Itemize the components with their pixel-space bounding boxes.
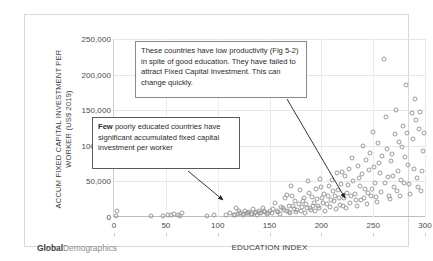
x-axis-tick [425,233,426,236]
scatter-point [332,193,337,198]
scatter-point [359,172,364,177]
scatter-point [373,180,378,185]
x-axis-tick [218,233,219,236]
brand-watermark: GlobalDemographics [37,243,117,253]
scatter-point [349,193,354,198]
scatter-point [357,183,362,188]
scatter-point [347,166,352,171]
scatter-point [355,163,360,168]
scatter-point [377,160,382,165]
scatter-point [376,140,381,145]
scatter-point [384,146,389,151]
x-tick-label: 300 [418,221,431,230]
scatter-point [343,173,348,178]
scatter-point [114,213,119,218]
y-tick-label: 150,000 [81,106,111,115]
scatter-point [149,213,154,218]
scatter-point [392,132,397,137]
scatter-point [403,155,408,160]
scatter-point [408,191,413,196]
x-tick-label: 50 [161,221,170,230]
scatter-point [383,115,388,120]
scatter-point [341,203,346,208]
scatter-point [416,126,421,131]
scatter-point [417,109,422,114]
scatter-point [318,176,323,181]
scatter-point [421,130,426,135]
x-tick-label: 200 [315,221,328,230]
scatter-point [395,189,400,194]
scatter-point [270,207,275,212]
scatter-point [285,192,290,197]
scatter-point [297,187,302,192]
scatter-point [329,177,334,182]
scatter-point [324,202,329,207]
scatter-point [415,185,420,190]
scatter-point [272,200,277,205]
scatter-point [354,204,359,209]
scatter-point [361,196,366,201]
scatter-point [412,96,417,101]
x-axis-tick [270,233,271,236]
scatter-point [345,190,350,195]
scatter-point [305,179,310,184]
scatter-point [367,168,372,173]
scatter-point [310,195,315,200]
scatter-point [372,165,377,170]
scatter-point [241,212,246,217]
y-tick-label: 200,000 [81,70,111,79]
scatter-point [405,130,410,135]
scatter-point [289,183,294,188]
scatter-point [400,145,405,150]
scatter-point [319,185,324,190]
scatter-point [278,205,283,210]
scatter-point [302,210,307,215]
x-axis-tick [166,233,167,236]
scatter-point [382,180,387,185]
scatter-point [320,196,325,201]
x-tick-label: 100 [211,221,224,230]
scatter-point [413,118,418,123]
scatter-point [371,129,376,134]
scatter-point [346,182,351,187]
scatter-point [365,190,370,195]
scatter-point [409,111,414,116]
scatter-point [398,194,403,199]
scatter-point [390,173,395,178]
scatter-point [374,195,379,200]
scatter-point [399,177,404,182]
scatter-point [291,203,296,208]
scatter-point [414,175,419,180]
y-tick-label: 50,000 [86,177,111,186]
scatter-point [295,207,300,212]
scatter-point [353,197,358,202]
scatter-point [180,211,185,216]
scatter-point [389,152,394,157]
annotation-high-education-low-investment: These countries have low productivity (F… [135,41,307,98]
gridline-vertical [425,39,426,217]
brand-light: Demographics [63,243,117,253]
x-axis-tick [373,233,374,236]
scatter-point [381,56,386,61]
scatter-point [326,183,331,188]
scatter-point [396,169,401,174]
x-tick-label: 250 [366,221,379,230]
x-tick-label: 0 [112,221,116,230]
scatter-point [401,123,406,128]
chart-frame: ACCUM FIXED CAPITAL INVESTMENT PER WORKE… [24,14,409,247]
scatter-point [393,108,398,113]
scatter-point [312,200,317,205]
scatter-point [375,200,380,205]
scatter-point [233,212,238,217]
scatter-point [316,204,321,209]
scatter-point [350,155,355,160]
annotation-top-text: These countries have low productivity (F… [141,46,298,87]
scatter-point [334,170,339,175]
scatter-point [410,136,415,141]
scatter-point [211,213,216,218]
y-tick-label: 250,000 [81,35,111,44]
scatter-point [363,158,368,163]
scatter-point [420,149,425,154]
x-axis-tick [114,233,115,236]
scatter-point [406,163,411,168]
